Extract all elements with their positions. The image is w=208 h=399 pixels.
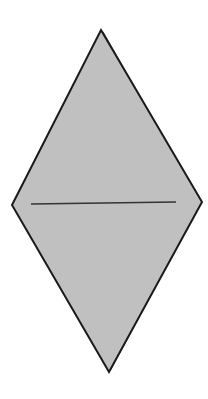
rhombus-shape: [12, 30, 202, 372]
diagram-canvas: [0, 0, 208, 399]
